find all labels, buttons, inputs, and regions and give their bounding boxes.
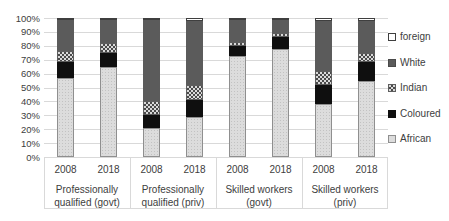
gridline-80% [44, 46, 388, 47]
legend-item-African[interactable]: African [388, 133, 431, 145]
segment-foreign-2008-group1[interactable] [57, 18, 74, 20]
year-label-2008: 2008 [44, 164, 88, 176]
y-axis-tick-label: 30% [4, 110, 40, 121]
segment-foreign-2008-group2[interactable] [143, 18, 160, 20]
stacked-bar-chart: 0%10%20%30%40%50%60%70%80%90%100% 200820… [0, 0, 449, 221]
year-label-2018: 2018 [345, 164, 389, 176]
segment-Indian-2018-group2[interactable] [186, 85, 203, 100]
year-label-2008: 2008 [130, 164, 174, 176]
gridline-60% [44, 74, 388, 75]
segment-Indian-2008-group1[interactable] [57, 51, 74, 62]
y-axis-tick-label: 70% [4, 54, 40, 65]
segment-foreign-2018-group4[interactable] [358, 18, 375, 21]
segment-Coloured-2008-group4[interactable] [315, 85, 332, 104]
y-axis-tick-label: 50% [4, 82, 40, 93]
segment-Coloured-2008-group3[interactable] [229, 46, 246, 56]
segment-African-2008-group2[interactable] [143, 128, 160, 157]
segment-White-2018-group1[interactable] [100, 19, 117, 43]
segment-White-2008-group2[interactable] [143, 19, 160, 101]
y-axis-tick-label: 10% [4, 138, 40, 149]
group-label-line: Skilled workers [216, 184, 302, 197]
y-axis-tick-label: 80% [4, 40, 40, 51]
year-label-2008: 2008 [216, 164, 260, 176]
legend-swatch-Coloured [388, 110, 396, 118]
legend-label-White: White [400, 57, 426, 69]
segment-Coloured-2018-group4[interactable] [358, 62, 375, 80]
gridline-40% [44, 101, 388, 102]
y-axis-tick-label: 100% [4, 13, 40, 24]
legend-swatch-African [388, 135, 396, 143]
year-label-2018: 2018 [259, 164, 303, 176]
segment-African-2008-group1[interactable] [57, 78, 74, 157]
group-label-line: (govt) [216, 197, 302, 210]
legend-label-Coloured: Coloured [400, 108, 441, 120]
y-axis-tick-label: 0% [4, 152, 40, 163]
segment-White-2008-group1[interactable] [57, 19, 74, 51]
segment-African-2018-group3[interactable] [272, 49, 289, 157]
gridline-90% [44, 32, 388, 33]
legend-swatch-Indian [388, 84, 396, 92]
segment-African-2018-group2[interactable] [186, 117, 203, 157]
y-axis-tick-label: 90% [4, 26, 40, 37]
segment-Coloured-2018-group2[interactable] [186, 100, 203, 117]
y-axis-tick-label: 20% [4, 124, 40, 135]
gridline-100% [44, 18, 388, 19]
group-label-2: Professionallyqualified (priv) [130, 184, 216, 209]
group-label-3: Skilled workers(govt) [216, 184, 302, 209]
segment-African-2018-group1[interactable] [100, 67, 117, 157]
y-axis-tick-label: 60% [4, 68, 40, 79]
segment-Coloured-2008-group2[interactable] [143, 115, 160, 128]
group-label-4: Skilled workers(priv) [302, 184, 388, 209]
segment-foreign-2008-group3[interactable] [229, 18, 246, 20]
y-axis-tick-label: 40% [4, 96, 40, 107]
segment-Indian-2018-group1[interactable] [100, 43, 117, 53]
segment-Coloured-2008-group1[interactable] [57, 62, 74, 77]
group-label-line: Skilled workers [302, 184, 388, 197]
gridline-50% [44, 88, 388, 89]
group-label-line: qualified (govt) [44, 197, 130, 210]
group-label-1: Professionallyqualified (govt) [44, 184, 130, 209]
legend-label-foreign: foreign [400, 31, 431, 43]
gridline-30% [44, 115, 388, 116]
legend-item-foreign[interactable]: foreign [388, 31, 431, 43]
legend-label-Indian: Indian [400, 82, 427, 94]
group-label-line: (priv) [302, 197, 388, 210]
segment-foreign-2008-group4[interactable] [315, 18, 332, 21]
segment-African-2008-group4[interactable] [315, 104, 332, 157]
gridline-70% [44, 60, 388, 61]
group-label-line: qualified (priv) [130, 197, 216, 210]
legend-swatch-foreign [388, 33, 396, 41]
segment-foreign-2018-group2[interactable] [186, 18, 203, 21]
year-label-2018: 2018 [173, 164, 217, 176]
segment-African-2018-group4[interactable] [358, 81, 375, 157]
segment-foreign-2018-group3[interactable] [272, 18, 289, 20]
segment-Indian-2008-group4[interactable] [315, 71, 332, 85]
gridline-10% [44, 143, 388, 144]
year-label-2008: 2008 [302, 164, 346, 176]
segment-African-2008-group3[interactable] [229, 56, 246, 157]
group-label-line: Professionally [130, 184, 216, 197]
segment-White-2008-group4[interactable] [315, 21, 332, 71]
segment-foreign-2018-group1[interactable] [100, 18, 117, 20]
legend-item-White[interactable]: White [388, 57, 426, 69]
segment-Indian-2018-group4[interactable] [358, 53, 375, 63]
legend-swatch-White [388, 59, 396, 67]
legend-item-Coloured[interactable]: Coloured [388, 108, 441, 120]
segment-White-2008-group3[interactable] [229, 19, 246, 41]
legend-label-African: African [400, 133, 431, 145]
segment-Indian-2008-group2[interactable] [143, 101, 160, 115]
segment-Indian-2008-group3[interactable] [229, 42, 246, 46]
segment-White-2018-group2[interactable] [186, 21, 203, 85]
segment-Indian-2018-group3[interactable] [272, 33, 289, 37]
segment-White-2018-group4[interactable] [358, 21, 375, 53]
group-label-line: Professionally [44, 184, 130, 197]
segment-Coloured-2018-group1[interactable] [100, 53, 117, 67]
legend-item-Indian[interactable]: Indian [388, 82, 427, 94]
gridline-20% [44, 129, 388, 130]
segment-White-2018-group3[interactable] [272, 19, 289, 33]
year-label-2018: 2018 [87, 164, 131, 176]
segment-Coloured-2018-group3[interactable] [272, 37, 289, 48]
